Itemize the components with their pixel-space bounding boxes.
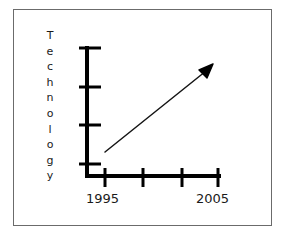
y-axis-title-letter: T <box>41 28 59 44</box>
arrow-up-right-icon <box>199 64 213 78</box>
y-axis-title-letter: n <box>41 90 59 106</box>
y-axis-title-letter: g <box>41 153 59 169</box>
y-axis-title-letter: l <box>41 122 59 138</box>
y-axis-title-letter: o <box>41 106 59 122</box>
x-axis-tick-label: 1995 <box>86 191 119 206</box>
y-axis-title-letter: o <box>41 137 59 153</box>
y-axis-title-letter: c <box>41 59 59 75</box>
y-axis-title-letter: e <box>41 44 59 60</box>
figure-canvas: T e c h n o l o g y 1995 2005 <box>0 0 283 234</box>
x-axis-tick-label: 2005 <box>196 191 229 206</box>
y-axis-title-letter: y <box>41 168 59 184</box>
y-axis-title: T e c h n o l o g y <box>41 28 59 184</box>
trend-arrow-shaft <box>105 71 206 152</box>
y-axis-title-letter: h <box>41 75 59 91</box>
